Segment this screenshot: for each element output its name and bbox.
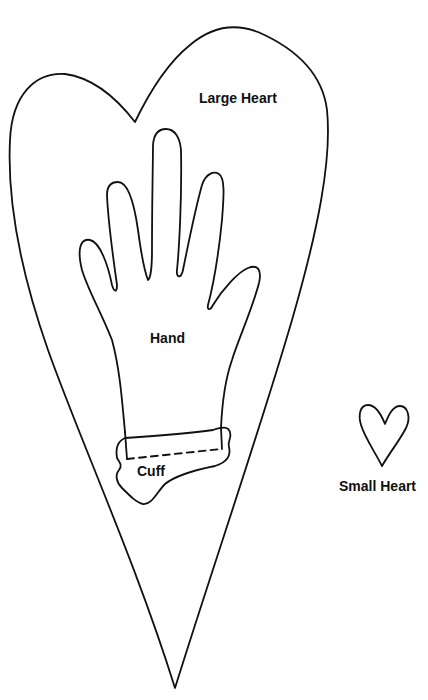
- cuff-label: Cuff: [137, 463, 165, 479]
- cuff-outline: [117, 428, 231, 504]
- hand-outline: [80, 129, 260, 432]
- cuff-fold-line: [127, 449, 222, 459]
- small-heart-outline: [360, 405, 409, 466]
- hand-label: Hand: [150, 330, 185, 346]
- small-heart-label: Small Heart: [339, 478, 416, 494]
- cuff-left-edge: [125, 432, 127, 459]
- large-heart-outline: [10, 27, 328, 688]
- cuff-right-edge: [221, 428, 222, 449]
- large-heart-label: Large Heart: [199, 90, 277, 106]
